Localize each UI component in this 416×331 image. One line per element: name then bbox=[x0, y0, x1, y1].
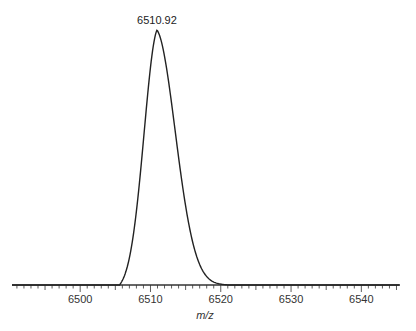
spectrum-line bbox=[12, 30, 399, 285]
minor-ticks bbox=[17, 285, 397, 292]
peak-label: 6510.92 bbox=[137, 14, 177, 26]
x-tick-label: 6520 bbox=[209, 293, 233, 305]
x-tick-label: 6530 bbox=[279, 293, 303, 305]
x-tick-label: 6500 bbox=[68, 293, 92, 305]
x-tick-label: 6510 bbox=[138, 293, 162, 305]
x-tick-labels: 65006510652065306540 bbox=[68, 293, 374, 305]
x-axis-title: m/z bbox=[196, 309, 214, 321]
mass-spectrum-chart: 6510.92 65006510652065306540 m/z bbox=[0, 0, 416, 331]
x-tick-label: 6540 bbox=[349, 293, 373, 305]
